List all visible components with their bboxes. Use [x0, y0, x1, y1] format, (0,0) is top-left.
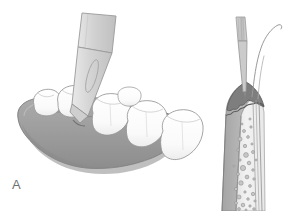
scalpel-handle-top — [78, 13, 116, 53]
cell — [241, 203, 245, 207]
cell — [237, 173, 240, 176]
cell — [252, 151, 255, 154]
cell — [240, 165, 245, 170]
figure-container: A — [0, 0, 286, 211]
cell — [247, 136, 250, 139]
cell — [253, 178, 255, 180]
cell — [237, 149, 240, 152]
cell — [247, 161, 251, 165]
cell — [245, 175, 249, 179]
cell — [243, 130, 246, 133]
cell — [239, 159, 241, 161]
dental-illustration-svg — [0, 0, 286, 211]
cell — [243, 144, 246, 147]
cell — [255, 159, 257, 161]
panel-label-a: A — [12, 178, 21, 191]
cell — [251, 143, 253, 145]
cell — [251, 192, 254, 195]
cell — [235, 202, 238, 205]
cell — [233, 165, 235, 167]
cell — [237, 195, 241, 199]
cell — [244, 191, 246, 193]
cell — [254, 200, 256, 202]
cell — [238, 208, 241, 211]
cell — [234, 187, 237, 190]
cell — [244, 153, 249, 158]
tooth-6 — [118, 87, 141, 106]
cell — [241, 123, 243, 125]
cell — [249, 205, 251, 207]
cell — [249, 185, 252, 188]
cell — [239, 181, 243, 185]
tooth-1 — [33, 89, 61, 116]
cell — [245, 209, 247, 211]
cell — [247, 198, 250, 201]
cell — [250, 126, 252, 128]
cell — [252, 169, 255, 172]
cell — [249, 118, 251, 120]
cell — [238, 137, 242, 141]
cell — [253, 208, 256, 211]
